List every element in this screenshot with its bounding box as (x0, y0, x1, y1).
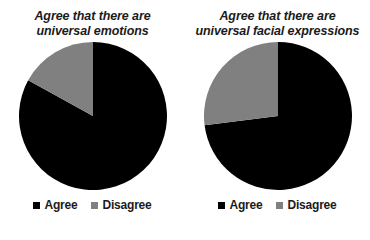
legend-label-disagree: Disagree (102, 198, 151, 212)
pie-chart-facial-expressions (203, 41, 353, 191)
chart-panel-emotions: Agree that there are universal emotions … (0, 0, 185, 240)
square-swatch-gray-icon (91, 202, 98, 209)
chart-title-emotions: Agree that there are universal emotions (4, 9, 182, 39)
pie-chart-figure: Agree that there are universal emotions … (0, 0, 370, 240)
square-swatch-black-icon (33, 202, 40, 209)
legend-label-agree: Agree (44, 198, 77, 212)
legend-item-disagree[interactable]: Disagree (91, 198, 151, 212)
pie-svg-emotions (18, 41, 168, 191)
legend-item-agree[interactable]: Agree (218, 198, 262, 212)
chart-title-line-2: universal facial expressions (189, 24, 367, 39)
chart-title-line-2: universal emotions (4, 24, 182, 39)
square-swatch-gray-icon (276, 202, 283, 209)
legend-label-agree: Agree (229, 198, 262, 212)
chart-title-facial-expressions: Agree that there are universal facial ex… (189, 9, 367, 39)
pie-slice-disagree[interactable] (203, 42, 277, 125)
pie-slices-facial-expressions (203, 42, 351, 190)
chart-title-line-1: Agree that there are (4, 9, 182, 24)
legend-facial-expressions: Agree Disagree (218, 198, 336, 212)
pie-svg-facial-expressions (203, 41, 353, 191)
legend-item-disagree[interactable]: Disagree (276, 198, 336, 212)
legend-emotions: Agree Disagree (33, 198, 151, 212)
chart-panel-facial-expressions: Agree that there are universal facial ex… (185, 0, 370, 240)
legend-label-disagree: Disagree (287, 198, 336, 212)
legend-item-agree[interactable]: Agree (33, 198, 77, 212)
pie-slices-emotions (18, 42, 166, 190)
square-swatch-black-icon (218, 202, 225, 209)
chart-title-line-1: Agree that there are (189, 9, 367, 24)
pie-chart-emotions (18, 41, 168, 191)
